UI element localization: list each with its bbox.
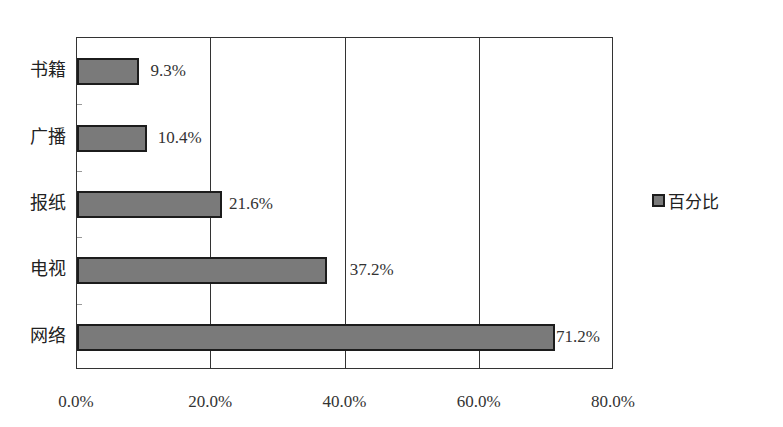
x-tick-label: 20.0% [188, 392, 232, 412]
y-tick [77, 237, 82, 238]
x-tick-label: 80.0% [591, 392, 635, 412]
bar [77, 191, 222, 218]
category-label: 书籍 [6, 59, 66, 81]
bar [77, 58, 139, 85]
y-tick [77, 304, 82, 305]
plot-area [76, 37, 613, 369]
category-label: 电视 [6, 258, 66, 280]
data-label: 37.2% [350, 260, 394, 280]
category-label: 网络 [6, 325, 66, 347]
data-label: 9.3% [150, 61, 185, 81]
bar [77, 257, 327, 284]
y-tick [77, 171, 82, 172]
bar-chart: 百分比 9.3%书籍10.4%广播21.6%报纸37.2%电视71.2%网络0.… [0, 0, 783, 427]
bar [77, 324, 555, 351]
gridline [345, 38, 346, 368]
x-tick-label: 40.0% [323, 392, 367, 412]
data-label: 10.4% [158, 128, 202, 148]
category-label: 报纸 [6, 192, 66, 214]
bar [77, 125, 147, 152]
x-tick-label: 60.0% [457, 392, 501, 412]
data-label: 71.2% [556, 327, 600, 347]
category-label: 广播 [6, 126, 66, 148]
legend-swatch-icon [652, 194, 665, 207]
legend: 百分比 [652, 188, 719, 213]
gridline [479, 38, 480, 368]
data-label: 21.6% [229, 194, 273, 214]
legend-label: 百分比 [668, 188, 719, 213]
y-tick [77, 104, 82, 105]
x-tick-label: 0.0% [58, 392, 93, 412]
